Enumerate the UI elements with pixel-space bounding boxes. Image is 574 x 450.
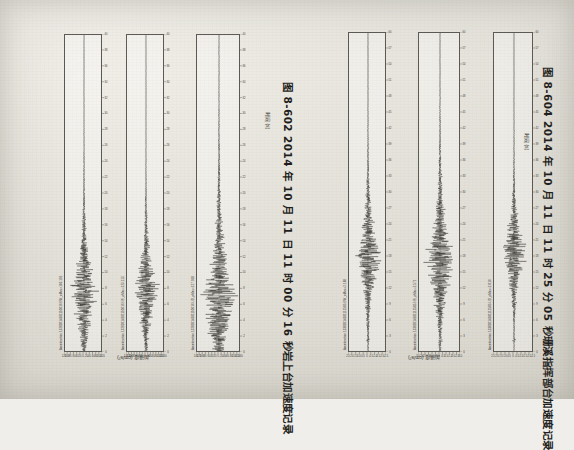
x-axis-tick-label: 0 xyxy=(536,352,537,355)
x-axis-tick-label: 18 xyxy=(105,209,108,212)
figure-caption-8-604: 图 8-604 2014 年 10 月 11 日 11 时 25 分 05 秒珊… xyxy=(541,67,556,450)
y-axis-tick-label: -20 xyxy=(84,356,88,359)
seismogram-panel: 03691215182124273033363942454851545760-2… xyxy=(493,32,533,352)
x-axis-tick-label: 24 xyxy=(105,161,108,164)
y-axis-tick-label: 1.0 xyxy=(503,356,507,359)
x-axis-tick-label: 42 xyxy=(389,128,392,131)
y-axis-tick-label: -2.0 xyxy=(380,356,384,359)
x-axis-tick-label: 26 xyxy=(105,145,108,148)
y-axis-tick-label: 2.5 xyxy=(491,356,495,359)
y-axis-tick-label: -20 xyxy=(219,356,223,359)
y-axis-tick-label: -80 xyxy=(229,356,233,359)
seismogram-panel: 03691215182124273033363942454851545760-3… xyxy=(418,32,460,352)
x-axis-tick-label: 27 xyxy=(463,208,466,211)
y-axis-label-8-602: 加速度 (cm/s²) xyxy=(117,355,149,360)
x-axis-tick-label: 12 xyxy=(167,257,170,260)
x-axis-tick-label: 12 xyxy=(463,288,466,291)
x-axis-tick-label: 12 xyxy=(536,288,539,291)
x-axis-tick-label: 3 xyxy=(389,336,390,339)
x-axis-tick-label: 18 xyxy=(243,209,246,212)
x-axis-tick-label: 4 xyxy=(105,320,106,323)
x-axis-tick-label: 24 xyxy=(167,161,170,164)
x-axis-tick-label: 0 xyxy=(167,352,168,355)
x-axis-tick-label: 14 xyxy=(167,241,170,244)
figure-caption-8-602: 图 8-602 2014 年 10 月 11 日 11 时 00 分 16 秒岩… xyxy=(281,82,296,434)
x-axis-tick-label: 40 xyxy=(243,34,246,37)
y-axis-tick-label: 80 xyxy=(204,356,207,359)
waveform-svg xyxy=(419,32,460,351)
x-axis-tick-label: 39 xyxy=(389,144,392,147)
x-axis-tick-label: 18 xyxy=(536,256,539,259)
x-axis-tick-label: 36 xyxy=(463,160,466,163)
x-axis-tick-label: 3 xyxy=(536,336,537,339)
y-axis-tick-label: -60 xyxy=(91,356,95,359)
y-axis-tick-label: 140 xyxy=(194,356,198,359)
x-axis-tick-label: 57 xyxy=(536,48,539,51)
x-axis-tick-label: 36 xyxy=(243,66,246,69)
seismogram-panel: 03691215182124273033363942454851545760-2… xyxy=(348,32,386,352)
x-axis-tick-label: 38 xyxy=(105,50,108,53)
x-axis-tick-label: 26 xyxy=(167,145,170,148)
x-axis-tick-label: 6 xyxy=(463,320,464,323)
x-axis-tick-label: 16 xyxy=(243,225,246,228)
x-axis-tick-label: 45 xyxy=(463,112,466,115)
x-axis-tick-label: 18 xyxy=(389,256,392,259)
x-axis-tick-label: 18 xyxy=(167,209,170,212)
x-axis-tick-label: 15 xyxy=(536,272,539,275)
x-axis-tick-label: 34 xyxy=(105,82,108,85)
x-axis-tick-label: 42 xyxy=(536,128,539,131)
x-axis-tick-label: 36 xyxy=(389,160,392,163)
trace-title: Acceleration 13202014101110016 NS_aMax=1… xyxy=(122,276,125,350)
y-axis-tick-label: 120 xyxy=(62,356,66,359)
y-axis-tick-label: 1.5 xyxy=(354,356,358,359)
x-axis-tick-label: 15 xyxy=(463,272,466,275)
plot-area-8-604: 03691215182124273033363942454851545760-2… xyxy=(300,0,568,399)
x-axis-tick-label: 3 xyxy=(463,336,464,339)
y-axis-tick-label: 60 xyxy=(207,356,210,359)
y-axis-tick-label: -2.5 xyxy=(384,356,388,359)
x-axis-tick-label: 0 xyxy=(389,352,390,355)
x-axis-tick-label: 4 xyxy=(243,320,244,323)
y-axis-tick-label: 20 xyxy=(78,356,81,359)
x-axis-tick-label: 38 xyxy=(167,50,170,53)
x-axis-tick-label: 12 xyxy=(389,288,392,291)
x-axis-tick-label: 0 xyxy=(463,352,464,355)
y-axis-tick-label: -2.5 xyxy=(531,356,535,359)
trace-title: Acceleration 13202014101110016 UD_aMax=1… xyxy=(192,276,195,350)
x-axis-tick-label: 20 xyxy=(105,193,108,196)
x-axis-tick-label: 24 xyxy=(463,224,466,227)
x-axis-tick-label: 6 xyxy=(105,304,106,307)
x-axis-tick-label: 20 xyxy=(243,193,246,196)
x-axis-tick-label: 51 xyxy=(463,80,466,83)
x-axis-tick-label: 51 xyxy=(389,80,392,83)
x-axis-tick-label: 60 xyxy=(463,32,466,35)
y-axis-tick-label: -0.5 xyxy=(515,356,519,359)
x-axis-tick-label: 32 xyxy=(167,98,170,101)
x-axis-tick-label: 57 xyxy=(389,48,392,51)
x-axis-tick-label: 30 xyxy=(389,192,392,195)
plot-frame xyxy=(196,34,240,352)
y-axis-tick-label: -0.5 xyxy=(440,356,444,359)
y-axis-tick-label: 60 xyxy=(72,356,75,359)
x-axis-tick-label: 26 xyxy=(243,145,246,148)
waveform-trace xyxy=(200,34,238,351)
x-axis-tick-label: 54 xyxy=(536,64,539,67)
x-axis-tick-label: 4 xyxy=(167,320,168,323)
waveform-trace xyxy=(424,32,453,351)
x-axis-tick-label: 30 xyxy=(536,192,539,195)
x-axis-tick-label: 27 xyxy=(389,208,392,211)
x-axis-tick-label: 24 xyxy=(389,224,392,227)
y-axis-tick-label: -1.5 xyxy=(523,356,527,359)
x-axis-tick-label: 14 xyxy=(243,241,246,244)
x-axis-tick-label: 38 xyxy=(243,50,246,53)
x-axis-tick-label: 34 xyxy=(167,82,170,85)
seismogram-panel: 0246810121416182022242628303234363840-14… xyxy=(126,34,164,352)
x-axis-tick-label: 60 xyxy=(389,32,392,35)
y-axis-tick-label: 0 xyxy=(366,356,367,359)
waveform-svg xyxy=(349,32,386,351)
figure-group-8-602: 0246810121416182022242628303234363840-12… xyxy=(6,0,306,399)
seismogram-panel: 0246810121416182022242628303234363840-12… xyxy=(64,34,102,352)
x-axis-tick-label: 39 xyxy=(536,144,539,147)
y-axis-tick-label: 2.0 xyxy=(495,356,499,359)
plot-frame xyxy=(493,32,533,352)
